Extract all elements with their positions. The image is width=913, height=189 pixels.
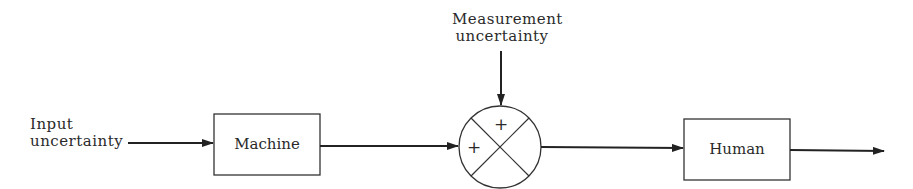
input-label-line1: Input bbox=[30, 116, 123, 133]
junction-output-arrow bbox=[541, 147, 683, 148]
measurement-uncertainty-label: Measurement uncertainty bbox=[452, 11, 552, 45]
input-uncertainty-label: Input uncertainty bbox=[30, 116, 123, 150]
machine-label: Machine bbox=[214, 135, 320, 153]
plus-sign-top: + bbox=[494, 114, 508, 134]
input-label-line2: uncertainty bbox=[30, 133, 123, 150]
plus-sign-left: + bbox=[467, 137, 481, 157]
human-label: Human bbox=[684, 140, 790, 158]
human-output-arrow bbox=[790, 150, 884, 151]
measurement-label-line2: uncertainty bbox=[452, 28, 552, 45]
measurement-label-line1: Measurement bbox=[452, 11, 552, 28]
